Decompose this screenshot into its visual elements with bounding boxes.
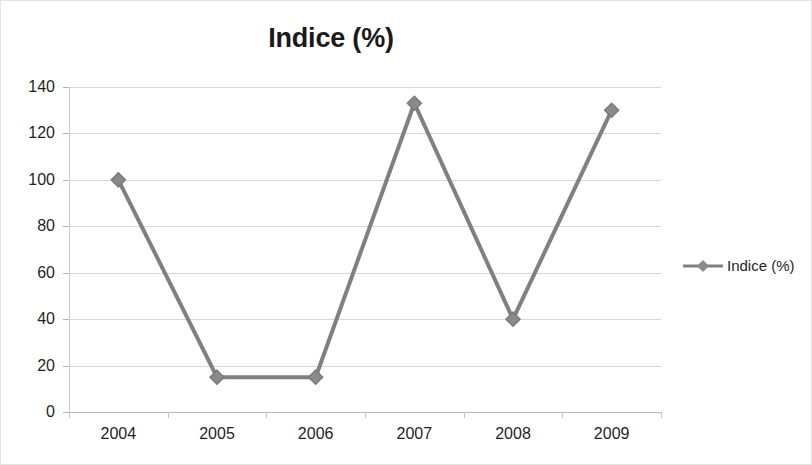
y-axis-tick-label: 80 xyxy=(9,217,55,235)
x-axis-tick-label: 2005 xyxy=(167,425,267,443)
plot-area xyxy=(69,87,661,412)
x-axis-tick-label: 2004 xyxy=(68,425,168,443)
line-series-indice xyxy=(69,87,661,412)
chart-legend: Indice (%) xyxy=(683,257,795,274)
y-axis-tick-label: 60 xyxy=(9,264,55,282)
data-point-marker xyxy=(210,370,224,384)
data-point-marker xyxy=(506,312,520,326)
chart-title: Indice (%) xyxy=(1,23,661,54)
y-axis-tick-label: 40 xyxy=(9,310,55,328)
y-axis-tick-label: 20 xyxy=(9,357,55,375)
y-axis-tick-label: 100 xyxy=(9,171,55,189)
x-tick-mark xyxy=(661,412,662,418)
legend-entry-label: Indice (%) xyxy=(727,257,795,274)
x-axis-tick-label: 2008 xyxy=(463,425,563,443)
legend-line-marker-icon xyxy=(683,259,723,273)
data-point-marker xyxy=(309,370,323,384)
y-axis-tick-label: 140 xyxy=(9,78,55,96)
x-axis-tick-label: 2009 xyxy=(562,425,662,443)
data-point-marker xyxy=(407,96,421,110)
data-point-marker xyxy=(605,103,619,117)
gridline xyxy=(69,412,661,413)
x-axis-tick-label: 2007 xyxy=(364,425,464,443)
data-point-marker xyxy=(111,173,125,187)
y-axis-tick-label: 0 xyxy=(9,403,55,421)
y-axis-tick-label: 120 xyxy=(9,124,55,142)
x-axis-tick-label: 2006 xyxy=(266,425,366,443)
series-line xyxy=(118,103,611,377)
chart-container: Indice (%) 140120100806040200 2004200520… xyxy=(0,0,812,465)
